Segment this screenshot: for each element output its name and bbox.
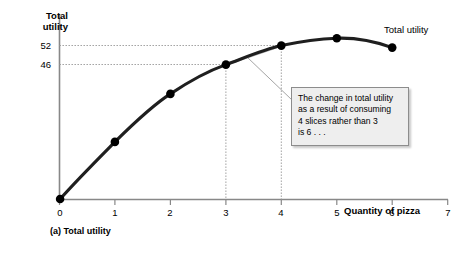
y-axis-title-line1: Total: [22, 10, 68, 21]
callout-line-2: as a result of consuming: [298, 104, 402, 115]
callout-leader-line: [247, 57, 292, 100]
data-point-3: [222, 60, 231, 69]
data-point-2: [166, 90, 175, 99]
data-point-1: [111, 138, 120, 147]
y-axis-title-line2: utility: [22, 21, 68, 32]
marginal-utility-callout: The change in total utility as a result …: [291, 87, 409, 146]
callout-line-3: 4 slices rather than 3: [298, 116, 402, 127]
y-axis-title: Total utility: [22, 10, 68, 32]
x-tick-label-4: 4: [271, 207, 291, 218]
x-tick-label-1: 1: [105, 207, 125, 218]
x-axis-title: Quantity of pizza: [344, 205, 420, 216]
data-point-5: [333, 34, 342, 43]
data-point-6: [388, 43, 397, 52]
x-tick-label-3: 3: [216, 207, 236, 218]
x-tick-label-0: 0: [50, 207, 70, 218]
total-utility-chart-figure: Total utility 52 46 0 1 2 3 4 5 6 7 Quan…: [0, 0, 463, 253]
panel-caption: (a) Total utility: [50, 226, 111, 236]
callout-line-1: The change in total utility: [298, 93, 402, 104]
y-tick-label-52: 52: [27, 40, 51, 51]
data-point-0: [56, 195, 65, 204]
curve-series-label: Total utility: [384, 24, 428, 35]
x-tick-label-7: 7: [438, 207, 458, 218]
x-tick-label-2: 2: [160, 207, 180, 218]
data-point-4: [277, 41, 286, 50]
callout-line-4: is 6 . . .: [298, 127, 402, 138]
y-tick-label-46: 46: [27, 59, 51, 70]
